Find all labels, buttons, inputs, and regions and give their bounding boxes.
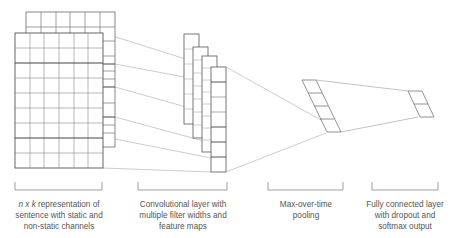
caption-pool: Max-over-time pooling — [260, 199, 352, 221]
bracket-fc — [372, 182, 438, 190]
feature-map-4 — [211, 67, 226, 172]
pooled-vector — [302, 80, 341, 132]
caption-conv: Convolutional layer with multiple filter… — [128, 199, 238, 232]
bracket-input — [15, 182, 102, 190]
feature-maps — [184, 34, 226, 172]
caption-fc: Fully connected layer with dropout and s… — [358, 199, 452, 232]
input-channel-non-static — [15, 33, 103, 168]
stage-brackets — [15, 182, 438, 190]
caption-input-math: n x k — [18, 200, 35, 209]
caption-input: n x k representation of sentence with st… — [5, 199, 113, 232]
bracket-conv — [138, 182, 227, 190]
bracket-pool — [268, 182, 343, 190]
output-layer — [408, 91, 434, 117]
